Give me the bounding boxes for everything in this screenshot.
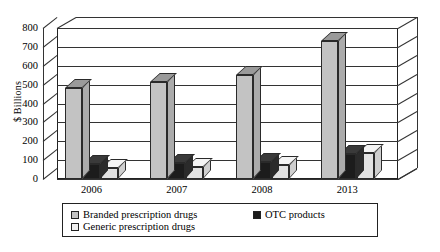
chart-legend: Branded prescription drugsOTC productsGe… [62,203,378,237]
y-tick-mark [43,17,58,29]
branded-swatch [71,211,79,219]
gridline-depth-edge [398,36,417,48]
bar-side-face [82,80,90,179]
legend-label: OTC products [265,209,325,220]
gridline-depth-edge [398,130,417,142]
bar-front-face [236,75,253,179]
gridline-depth-edge [398,55,417,67]
y-tick-label: 500 [8,80,38,90]
y-tick-label: 100 [8,155,38,165]
y-tick-label: 300 [8,117,38,127]
floor-depth-edge [398,168,417,180]
bar-side-face [167,73,175,179]
x-tick-label: 2008 [232,184,292,195]
plot-back-top-edge [76,17,417,18]
gridline-depth-edge [398,93,417,105]
bar [150,82,167,179]
legend-item: OTC products [253,209,325,220]
otc-swatch [253,211,261,219]
gridline [57,28,398,29]
legend-label: Branded prescription drugs [83,209,197,220]
bar-side-face [338,32,346,179]
x-tick-label: 2007 [147,184,207,195]
bar-front-face [321,41,338,179]
gridline-depth-edge [398,74,417,86]
gridline-depth-edge [398,17,417,29]
y-tick-mark [43,168,58,180]
y-tick-label: 200 [8,136,38,146]
bar [321,41,338,179]
y-tick-label: 700 [8,42,38,52]
gridline [57,141,398,142]
x-tick-label: 2006 [62,184,122,195]
bar [65,88,82,179]
legend-label: Generic prescription drugs [83,221,195,232]
plot-back-right-edge [417,17,418,168]
gridline [57,104,398,105]
y-tick-label: 800 [8,23,38,33]
y-tick-mark [43,149,58,161]
y-tick-mark [43,111,58,123]
y-tick-mark [43,36,58,48]
y-tick-label: 0 [8,174,38,184]
legend-item: Generic prescription drugs [71,221,195,232]
gridline-depth-edge [398,149,417,161]
gridline-depth-edge [398,111,417,123]
x-tick-label: 2013 [317,184,377,195]
y-tick-label: 400 [8,99,38,109]
bar [236,75,253,179]
bar-side-face [253,66,261,179]
y-tick-mark [43,55,58,67]
bar-front-face [65,88,82,179]
gridline [57,122,398,123]
y-tick-mark [43,93,58,105]
bar-chart: $ Billions 0100200300400500600700800 200… [0,0,440,252]
gridline [57,66,398,67]
generic-swatch [71,223,79,231]
y-tick-mark [43,74,58,86]
bar-front-face [150,82,167,179]
gridline [57,85,398,86]
gridline [57,47,398,48]
gridline [57,179,398,180]
y-tick-mark [43,130,58,142]
plot-area [57,17,417,179]
y-tick-label: 600 [8,61,38,71]
y-axis-front-spine [43,28,44,179]
legend-item: Branded prescription drugs [71,209,197,220]
